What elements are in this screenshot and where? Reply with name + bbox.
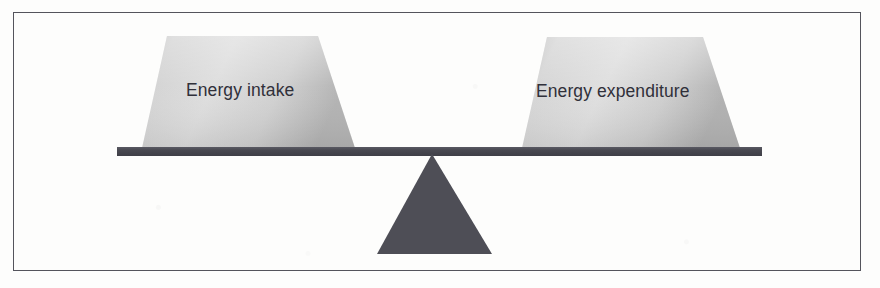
figure-border	[13, 12, 861, 271]
energy-balance-figure: Energy intake Energy expenditure	[0, 0, 880, 288]
